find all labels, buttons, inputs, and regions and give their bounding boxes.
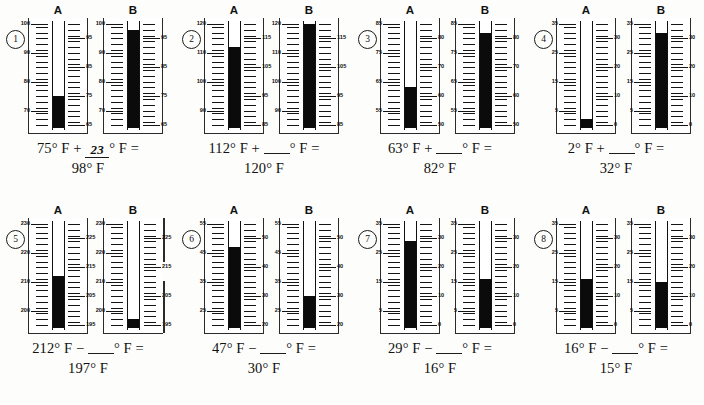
scale-label-left: 55 bbox=[376, 108, 382, 114]
thermometer-pair: A230220210200225215205195B23022021020022… bbox=[24, 204, 170, 338]
degree-symbol: ° bbox=[462, 140, 468, 156]
scale-label-right: 40 bbox=[262, 264, 268, 270]
scale-tick-major bbox=[319, 325, 336, 326]
scale-label-right: 65 bbox=[161, 122, 167, 128]
thermometer-a: A8575655580706050 bbox=[376, 4, 444, 138]
scale-tick bbox=[596, 316, 608, 317]
scale-label-right: 0 bbox=[689, 122, 692, 128]
scale-tick bbox=[495, 270, 507, 271]
scale-tick bbox=[287, 256, 299, 257]
degree-symbol: ° bbox=[86, 160, 92, 176]
scale-tick-major bbox=[596, 67, 613, 68]
scale-tick bbox=[671, 116, 683, 117]
thermometer-a-label: A bbox=[24, 204, 92, 219]
scale-tick bbox=[144, 299, 156, 300]
scale-tick bbox=[287, 102, 299, 103]
scale-tick bbox=[111, 27, 123, 28]
scale-tick bbox=[596, 30, 608, 31]
scale-tick bbox=[596, 105, 608, 106]
scale-tick bbox=[463, 125, 475, 126]
scale-label-left: 25 bbox=[627, 250, 633, 256]
scale-tick-major bbox=[383, 224, 400, 225]
scale-label-right: 20 bbox=[614, 264, 620, 270]
scale-label-right: 205 bbox=[86, 293, 95, 299]
scale-tick bbox=[143, 30, 155, 31]
scale-label-left: 25 bbox=[376, 250, 382, 256]
scale-tick bbox=[287, 285, 299, 286]
scale-tick-major bbox=[143, 67, 160, 68]
scale-tick bbox=[287, 238, 299, 239]
answer-blank[interactable] bbox=[264, 153, 290, 154]
scale-tick bbox=[420, 111, 432, 112]
operand-1: 112 bbox=[209, 140, 231, 156]
scale-tick bbox=[388, 267, 400, 268]
scale-tick bbox=[671, 247, 683, 248]
scale-tick-major bbox=[495, 67, 512, 68]
unit-label: F bbox=[61, 140, 69, 156]
scale-tick-major bbox=[596, 325, 613, 326]
scale-tick bbox=[144, 305, 156, 306]
scale-tick bbox=[36, 279, 48, 280]
scale-tick bbox=[495, 30, 507, 31]
scale-tick bbox=[319, 287, 331, 288]
scale-label-right: 50 bbox=[438, 122, 444, 128]
thermometer-a-label: A bbox=[552, 4, 620, 19]
scale-tick bbox=[319, 53, 331, 54]
scale-tick bbox=[111, 302, 123, 303]
answer-blank[interactable] bbox=[609, 153, 635, 154]
scale-tick-major bbox=[495, 96, 512, 97]
scale-tick bbox=[639, 302, 651, 303]
degree-symbol: ° bbox=[114, 340, 120, 356]
answer-blank[interactable] bbox=[612, 353, 638, 354]
unit-label: F bbox=[96, 160, 104, 176]
answer-blank[interactable] bbox=[88, 353, 114, 354]
scale-tick bbox=[639, 96, 651, 97]
scale-tick bbox=[244, 105, 256, 106]
problem-number-badge: 5 bbox=[6, 230, 25, 249]
scale-tick bbox=[143, 47, 155, 48]
thermometer-b-label: B bbox=[99, 4, 167, 19]
scale-tick bbox=[244, 282, 256, 283]
scale-label-left: 85 bbox=[376, 21, 382, 27]
answer-blank[interactable]: 23 bbox=[85, 143, 109, 158]
equation: 63° F + ° F =82° F bbox=[352, 138, 528, 178]
scale-tick-major bbox=[596, 125, 613, 126]
answer-blank[interactable] bbox=[436, 153, 462, 154]
scale-tick bbox=[388, 119, 400, 120]
mercury-column bbox=[128, 30, 139, 128]
scale-label-left: 90 bbox=[200, 108, 206, 114]
scale-tick bbox=[388, 73, 400, 74]
scale-tick bbox=[68, 236, 80, 237]
scale-tick bbox=[639, 296, 651, 297]
scale-tick-major bbox=[244, 325, 261, 326]
scale-tick bbox=[463, 308, 475, 309]
scale-tick-major bbox=[282, 111, 299, 112]
thermometer-case: 35251553020100 bbox=[380, 218, 440, 334]
scale-tick bbox=[388, 27, 400, 28]
scale-tick bbox=[111, 79, 123, 80]
scale-label-right: 215 bbox=[162, 264, 171, 270]
scale-tick bbox=[463, 113, 475, 114]
answer-blank[interactable] bbox=[260, 353, 286, 354]
scale-tick bbox=[244, 241, 256, 242]
scale-label-left: 220 bbox=[96, 250, 105, 256]
scale-tick bbox=[388, 102, 400, 103]
scale-tick bbox=[564, 233, 576, 234]
scale-tick bbox=[244, 76, 256, 77]
scale-tick bbox=[671, 99, 683, 100]
scale-tick bbox=[319, 270, 331, 271]
scale-tick bbox=[68, 36, 80, 37]
scale-tick bbox=[244, 99, 256, 100]
thermometer-case: 10090807095857565 bbox=[28, 18, 88, 134]
scale-tick bbox=[143, 116, 155, 117]
scale-tick bbox=[68, 122, 80, 123]
answer-blank[interactable] bbox=[436, 353, 462, 354]
scale-tick-major bbox=[282, 82, 299, 83]
scale-label-right: 65 bbox=[86, 122, 92, 128]
scale-label-left: 210 bbox=[96, 279, 105, 285]
scale-label-right: 20 bbox=[513, 264, 519, 270]
degree-symbol: ° bbox=[90, 360, 96, 376]
operand-1: 75 bbox=[37, 140, 52, 156]
thermometer-tube bbox=[127, 221, 140, 330]
scale-tick bbox=[287, 38, 299, 39]
